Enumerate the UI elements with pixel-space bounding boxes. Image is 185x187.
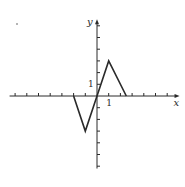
stray-dot <box>16 23 18 25</box>
x-axis-label: x <box>174 97 180 108</box>
x-unit-label: 1 <box>106 98 112 108</box>
y-axis-arrow-icon <box>95 19 99 24</box>
function-graph-figure: x y 1 1 <box>0 0 185 187</box>
coordinate-axes <box>10 19 180 168</box>
y-axis-label: y <box>86 16 93 27</box>
y-unit-label: 1 <box>88 79 94 89</box>
